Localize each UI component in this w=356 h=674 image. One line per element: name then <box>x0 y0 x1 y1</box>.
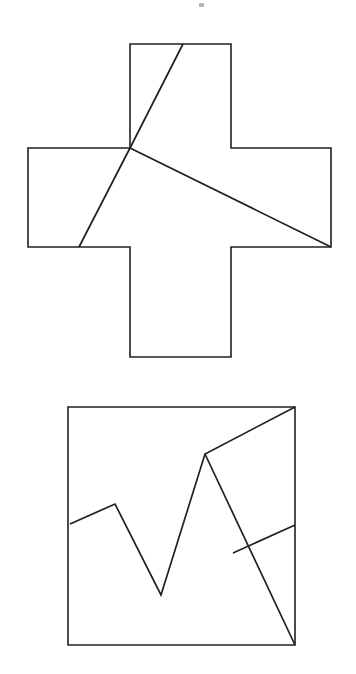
figure-sheet <box>0 0 356 674</box>
square-outline <box>68 407 295 645</box>
dissection-diagram-canvas <box>0 0 356 674</box>
greek-cross-figure <box>28 44 331 357</box>
greek-cross-outline <box>28 44 331 357</box>
scan-speck-icon <box>199 3 204 7</box>
square-figure <box>68 407 295 645</box>
